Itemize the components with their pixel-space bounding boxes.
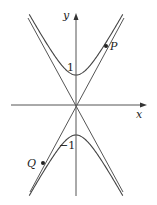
hyperbola-diagram: y x 1 −1 P Q xyxy=(0,0,157,205)
tick-label-1: 1 xyxy=(67,61,74,74)
y-axis-arrow-icon xyxy=(74,13,79,20)
x-axis-arrow-icon xyxy=(140,103,147,108)
y-axis-label: y xyxy=(62,9,70,22)
point-q-marker xyxy=(41,161,45,165)
point-p-label: P xyxy=(109,40,118,53)
point-p-marker xyxy=(104,44,108,48)
tick-label-neg-1: −1 xyxy=(59,139,75,152)
x-axis-label: x xyxy=(136,108,143,121)
point-q-label: Q xyxy=(27,157,36,170)
